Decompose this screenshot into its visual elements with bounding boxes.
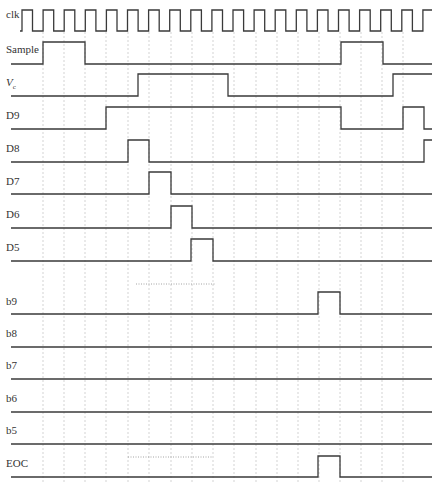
- timing-diagram: clkSampleVcD9D8D7D6D5b9b8b7b6b5EOC: [0, 0, 443, 488]
- vc-waveform: [11, 74, 432, 96]
- b6-label: b6: [6, 392, 18, 404]
- b9-waveform: [11, 292, 432, 314]
- eoc-waveform: [11, 456, 432, 477]
- d6-label: D6: [6, 208, 20, 220]
- vc-label: Vc: [6, 76, 16, 91]
- d8-label: D8: [6, 142, 20, 154]
- b8-label: b8: [6, 327, 18, 339]
- d9-waveform: [11, 107, 432, 129]
- d5-waveform: [11, 239, 432, 261]
- clk-waveform: [20, 10, 432, 31]
- signal-waveforms: [11, 10, 432, 477]
- grid-lines: [43, 32, 403, 482]
- sample-waveform: [11, 42, 432, 64]
- d6-waveform: [11, 206, 432, 228]
- b5-label: b5: [6, 424, 18, 436]
- d9-label: D9: [6, 109, 20, 121]
- b7-label: b7: [6, 359, 18, 371]
- clk-label: clk: [6, 8, 20, 20]
- d8-waveform: [11, 140, 432, 162]
- eoc-label: EOC: [6, 457, 28, 469]
- d7-waveform: [11, 172, 432, 194]
- d5-label: D5: [6, 241, 20, 253]
- continuation-dots: [128, 284, 215, 457]
- sample-label: Sample: [6, 43, 39, 55]
- signal-labels: clkSampleVcD9D8D7D6D5b9b8b7b6b5EOC: [6, 8, 39, 469]
- b9-label: b9: [6, 295, 18, 307]
- d7-label: D7: [6, 175, 20, 187]
